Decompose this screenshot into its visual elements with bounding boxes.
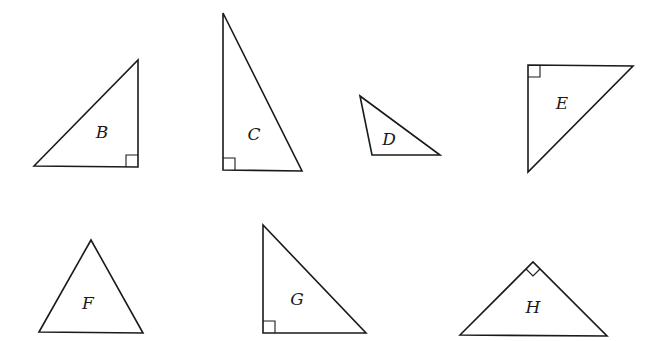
triangle-h: H (460, 262, 607, 336)
triangle-h-label: H (525, 297, 542, 317)
triangle-b-shape (34, 60, 138, 167)
triangle-f-shape (39, 240, 143, 333)
right-angle-marker-icon (263, 321, 275, 333)
triangle-c-label: C (247, 124, 260, 144)
triangle-e-shape (528, 65, 633, 172)
triangle-g-shape (263, 225, 366, 333)
right-angle-marker-icon (223, 158, 235, 170)
right-angle-marker-icon (126, 155, 138, 167)
triangle-f: F (39, 240, 143, 333)
triangle-g: G (263, 225, 366, 333)
triangle-d: D (360, 96, 440, 155)
triangle-e: E (528, 65, 633, 172)
triangle-e-label: E (555, 93, 569, 113)
triangles-diagram: B C D E F G H (0, 0, 653, 341)
triangle-c-shape (223, 13, 302, 171)
triangle-c: C (223, 13, 302, 171)
triangle-d-shape (360, 96, 440, 155)
triangle-g-label: G (290, 289, 304, 309)
triangle-f-label: F (81, 293, 95, 313)
triangle-b-label: B (95, 122, 109, 142)
right-angle-marker-icon (526, 269, 540, 276)
triangle-d-label: D (381, 129, 396, 149)
triangle-b: B (34, 60, 138, 167)
right-angle-marker-icon (528, 65, 540, 77)
